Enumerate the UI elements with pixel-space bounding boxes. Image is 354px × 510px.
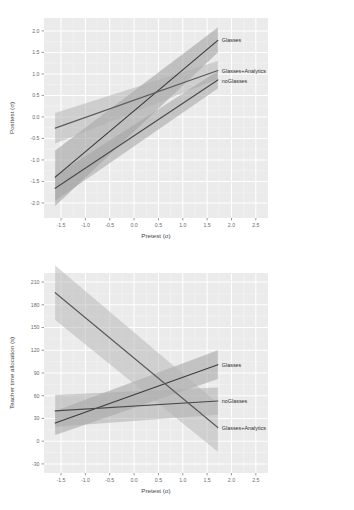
x-tick-label: 1.0 — [179, 222, 186, 228]
y-tick-label: 0.0 — [32, 114, 39, 120]
x-tick-label: 0.5 — [155, 222, 162, 228]
y-tick-label: 30 — [34, 415, 40, 421]
y-tick-label: 0.5 — [32, 92, 39, 98]
y-tick-label: -30 — [32, 461, 40, 467]
posttest-chart-svg: -1.5-1.0-0.50.00.51.01.52.02.52.01.51.00… — [0, 0, 354, 255]
x-tick-label: 1.0 — [179, 477, 186, 483]
x-tick-label: -1.0 — [81, 477, 90, 483]
x-axis-title: Pretest (σ) — [141, 232, 170, 239]
x-tick-label: 2.5 — [252, 477, 259, 483]
y-tick-label: -2.0 — [31, 200, 40, 206]
y-tick-label: 210 — [31, 279, 40, 285]
series-label-noglasses: noGlasses — [222, 78, 248, 84]
chart-panel-posttest: -1.5-1.0-0.50.00.51.01.52.02.52.01.51.00… — [0, 0, 354, 255]
y-tick-label: 150 — [31, 324, 40, 330]
x-tick-label: 0.0 — [130, 222, 137, 228]
y-tick-label: -1.5 — [31, 178, 40, 184]
x-tick-label: 1.5 — [204, 222, 211, 228]
y-tick-label: -0.5 — [31, 135, 40, 141]
y-tick-label: 90 — [34, 370, 40, 376]
chart-panel-teacher-time: -1.5-1.0-0.50.00.51.01.52.02.52101801501… — [0, 255, 354, 510]
y-tick-label: 2.0 — [32, 28, 39, 34]
y-tick-label: 120 — [31, 347, 40, 353]
series-label-noglasses: noGlasses — [222, 398, 248, 404]
series-label-glasses: Glasses — [222, 37, 242, 43]
x-tick-label: 0.5 — [155, 477, 162, 483]
x-tick-label: -0.5 — [105, 222, 114, 228]
y-axis-title: Posttest (σ) — [8, 102, 15, 134]
series-label-glasses: Glasses — [222, 362, 242, 368]
x-tick-label: -1.0 — [81, 222, 90, 228]
x-tick-label: -1.5 — [57, 222, 66, 228]
teacher-time-chart-svg: -1.5-1.0-0.50.00.51.01.52.02.52101801501… — [0, 255, 354, 510]
y-tick-label: 180 — [31, 302, 40, 308]
y-tick-label: 60 — [34, 393, 40, 399]
x-axis-title: Pretest (σ) — [141, 487, 170, 494]
x-tick-label: -1.5 — [57, 477, 66, 483]
y-tick-label: 0 — [37, 438, 40, 444]
x-tick-label: -0.5 — [105, 477, 114, 483]
y-axis-title: Teacher time allocation (s) — [8, 337, 15, 409]
x-tick-label: 2.0 — [228, 222, 235, 228]
series-label-glasses-analytics: Glasses+Analytics — [222, 425, 266, 431]
figure-container: -1.5-1.0-0.50.00.51.01.52.02.52.01.51.00… — [0, 0, 354, 510]
y-tick-label: 1.0 — [32, 71, 39, 77]
series-label-glasses-analytics: Glasses+Analytics — [222, 68, 266, 74]
x-tick-label: 2.0 — [228, 477, 235, 483]
y-tick-label: 1.5 — [32, 49, 39, 55]
x-tick-label: 2.5 — [252, 222, 259, 228]
x-tick-label: 0.0 — [130, 477, 137, 483]
x-tick-label: 1.5 — [204, 477, 211, 483]
y-tick-label: -1.0 — [31, 157, 40, 163]
